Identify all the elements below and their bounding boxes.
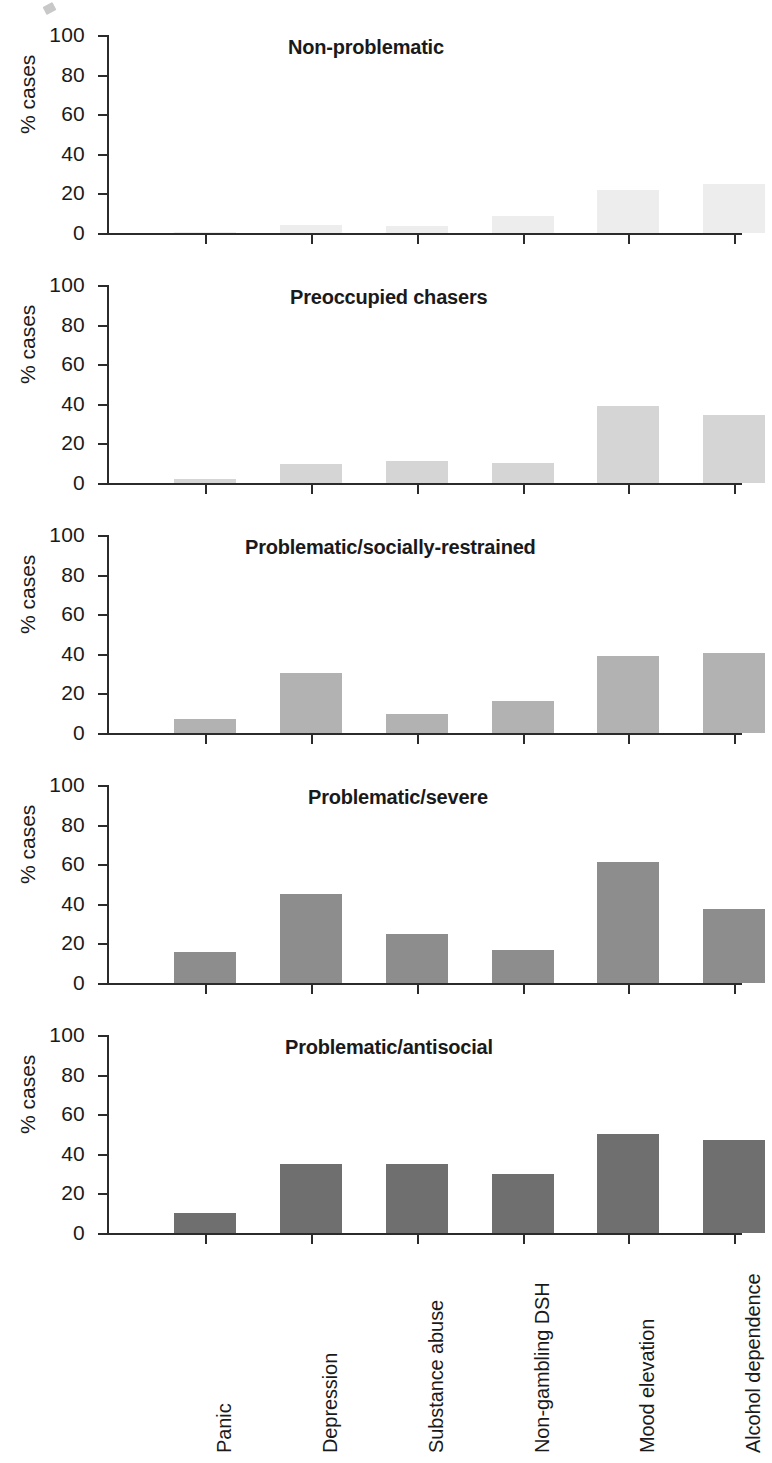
y-tick-label: 100 bbox=[0, 1023, 85, 1047]
y-tick-mark bbox=[98, 654, 107, 656]
x-tick-mark bbox=[628, 1235, 630, 1244]
x-tick-mark bbox=[523, 735, 525, 744]
x-tick-mark bbox=[417, 235, 419, 244]
bar bbox=[597, 190, 659, 233]
x-tick-mark bbox=[523, 985, 525, 994]
x-tick-mark bbox=[734, 485, 736, 494]
y-tick-label: 80 bbox=[0, 313, 85, 337]
y-tick-mark bbox=[98, 733, 107, 735]
y-tick-mark bbox=[98, 1114, 107, 1116]
y-tick-label: 0 bbox=[0, 971, 85, 995]
x-tick-mark bbox=[205, 1235, 207, 1244]
bar bbox=[386, 1164, 448, 1233]
y-tick-mark bbox=[98, 983, 107, 985]
x-tick-mark bbox=[523, 235, 525, 244]
category-label: Alcohol dependence bbox=[742, 1274, 765, 1453]
x-tick-mark bbox=[417, 1235, 419, 1244]
y-tick-mark bbox=[98, 233, 107, 235]
bar bbox=[492, 216, 554, 233]
y-tick-label: 100 bbox=[0, 23, 85, 47]
bar bbox=[492, 950, 554, 983]
y-tick-label: 0 bbox=[0, 721, 85, 745]
y-tick-label: 20 bbox=[0, 681, 85, 705]
x-tick-mark bbox=[734, 985, 736, 994]
y-tick-mark bbox=[98, 285, 107, 287]
y-tick-label: 0 bbox=[0, 471, 85, 495]
category-label: Depression bbox=[319, 1353, 342, 1453]
plot-area bbox=[107, 35, 742, 233]
category-label: Substance abuse bbox=[425, 1300, 448, 1453]
y-tick-mark bbox=[98, 364, 107, 366]
y-tick-label: 0 bbox=[0, 221, 85, 245]
chart-panel-3: % cases100806040200Problematic/severe bbox=[0, 750, 772, 1000]
y-tick-label: 20 bbox=[0, 1181, 85, 1205]
category-label: Panic bbox=[213, 1403, 236, 1453]
y-tick-label: 60 bbox=[0, 352, 85, 376]
y-tick-mark bbox=[98, 75, 107, 77]
x-tick-mark bbox=[734, 735, 736, 744]
category-label: Mood elevation bbox=[636, 1319, 659, 1453]
bar bbox=[492, 701, 554, 733]
chart-panel-2: % cases100806040200Problematic/socially-… bbox=[0, 500, 772, 750]
bar bbox=[280, 894, 342, 983]
bar bbox=[386, 226, 448, 233]
y-tick-label: 60 bbox=[0, 102, 85, 126]
plot-area bbox=[107, 285, 742, 483]
bar bbox=[174, 719, 236, 733]
y-tick-label: 100 bbox=[0, 773, 85, 797]
y-tick-mark bbox=[98, 193, 107, 195]
y-tick-label: 60 bbox=[0, 852, 85, 876]
multi-panel-bar-chart-figure: % cases100806040200Non-problematic% case… bbox=[0, 0, 772, 1463]
x-tick-mark bbox=[628, 985, 630, 994]
y-tick-mark bbox=[98, 483, 107, 485]
y-tick-label: 60 bbox=[0, 602, 85, 626]
bar bbox=[597, 656, 659, 733]
y-tick-label: 100 bbox=[0, 523, 85, 547]
bar bbox=[174, 952, 236, 983]
y-tick-label: 20 bbox=[0, 931, 85, 955]
x-tick-mark bbox=[417, 485, 419, 494]
x-tick-mark bbox=[311, 235, 313, 244]
plot-area bbox=[107, 1035, 742, 1233]
y-tick-mark bbox=[98, 325, 107, 327]
bar bbox=[703, 184, 765, 234]
y-tick-mark bbox=[98, 1233, 107, 1235]
y-tick-label: 80 bbox=[0, 813, 85, 837]
bar bbox=[597, 862, 659, 983]
x-tick-mark bbox=[523, 1235, 525, 1244]
bar bbox=[703, 909, 765, 983]
x-tick-mark bbox=[628, 235, 630, 244]
chart-panel-0: % cases100806040200Non-problematic bbox=[0, 0, 772, 250]
y-tick-mark bbox=[98, 154, 107, 156]
x-tick-mark bbox=[311, 1235, 313, 1244]
bar bbox=[703, 653, 765, 733]
y-tick-mark bbox=[98, 825, 107, 827]
y-tick-mark bbox=[98, 35, 107, 37]
x-tick-mark bbox=[628, 485, 630, 494]
bar bbox=[280, 1164, 342, 1233]
x-tick-mark bbox=[523, 485, 525, 494]
bar bbox=[174, 1213, 236, 1233]
bar bbox=[280, 225, 342, 233]
x-tick-mark bbox=[417, 985, 419, 994]
x-tick-mark bbox=[734, 235, 736, 244]
bar bbox=[703, 1140, 765, 1233]
x-tick-mark bbox=[628, 735, 630, 744]
x-tick-mark bbox=[311, 985, 313, 994]
bar bbox=[703, 415, 765, 483]
bar bbox=[492, 463, 554, 483]
y-tick-mark bbox=[98, 614, 107, 616]
y-tick-mark bbox=[98, 1035, 107, 1037]
x-tick-mark bbox=[311, 735, 313, 744]
y-tick-label: 40 bbox=[0, 142, 85, 166]
y-tick-mark bbox=[98, 693, 107, 695]
y-tick-label: 80 bbox=[0, 1063, 85, 1087]
plot-area bbox=[107, 785, 742, 983]
y-tick-mark bbox=[98, 785, 107, 787]
y-tick-mark bbox=[98, 404, 107, 406]
y-tick-mark bbox=[98, 443, 107, 445]
category-label: Non-gambling DSH bbox=[531, 1282, 554, 1453]
x-axis-line bbox=[107, 483, 742, 485]
y-tick-label: 100 bbox=[0, 273, 85, 297]
x-tick-mark bbox=[205, 485, 207, 494]
